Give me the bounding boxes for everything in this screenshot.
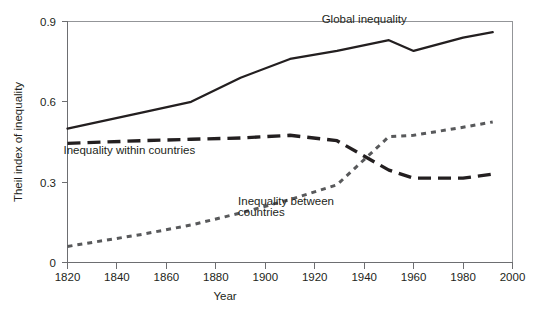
- x-axis-ticks: [68, 263, 513, 269]
- y-tick-label-2: 0.3: [40, 177, 56, 189]
- x-tick-label-2000: 2000: [500, 271, 526, 283]
- y-axis-ticks: [62, 22, 68, 263]
- x-tick-label-1980: 1980: [450, 271, 476, 283]
- x-tick-label-1880: 1880: [203, 271, 229, 283]
- x-tick-label-1820: 1820: [55, 271, 81, 283]
- x-tick-label-1940: 1940: [351, 271, 377, 283]
- series-label-inequality-between-countries-line2: countries: [238, 206, 285, 218]
- x-tick-label-1860: 1860: [154, 271, 180, 283]
- series-label-global-inequality: Global inequality: [322, 13, 407, 25]
- y-tick-label-1: 0.6: [40, 96, 56, 108]
- series-label-inequality-within-countries: Inequality within countries: [63, 144, 195, 156]
- series-line-inequality-within-countries: [68, 135, 493, 178]
- y-tick-label-0: 0.9: [40, 16, 56, 28]
- x-axis-title: Year: [213, 290, 236, 302]
- y-axis-title: Theil index of inequality: [12, 82, 24, 202]
- chart-figure: 0.9 0.6 0.3 0 1820 1840 1860 1880 1900 1…: [0, 0, 535, 311]
- x-tick-label-1920: 1920: [302, 271, 328, 283]
- x-tick-label-1900: 1900: [253, 271, 279, 283]
- series-line-global-inequality: [68, 32, 493, 128]
- theil-inequality-line-chart: 0.9 0.6 0.3 0 1820 1840 1860 1880 1900 1…: [0, 0, 535, 311]
- y-tick-label-3: 0: [50, 257, 56, 269]
- x-tick-label-1840: 1840: [104, 271, 130, 283]
- x-tick-label-1960: 1960: [401, 271, 427, 283]
